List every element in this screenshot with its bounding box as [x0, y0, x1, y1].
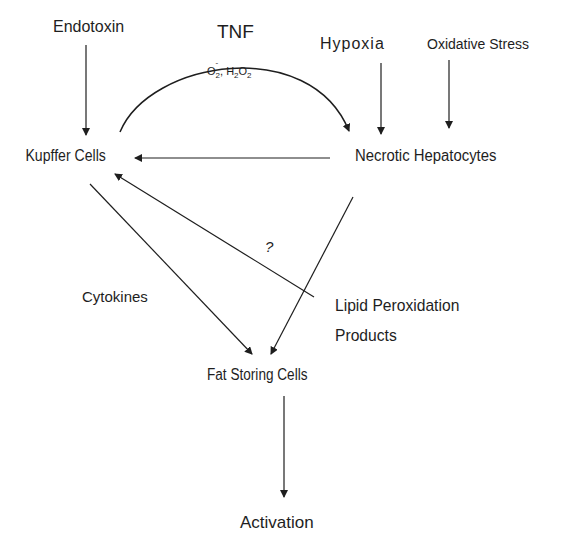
node-activation: Activation	[240, 514, 314, 531]
ros-o-sub: 2	[247, 71, 251, 80]
label-question-mark: ?	[265, 239, 273, 254]
label-tnf: TNF	[217, 22, 254, 41]
ros-o2-sub: 2	[216, 71, 220, 80]
label-ros: O-2, H2O2	[207, 66, 252, 80]
diagram-arrows	[0, 0, 574, 546]
arrow-lipid-to-kupffer	[115, 174, 314, 297]
ros-sep: , H	[220, 65, 234, 77]
arrow-kupffer-to-fatstoring	[90, 184, 252, 354]
node-hypoxia: Hypoxia	[320, 36, 385, 52]
label-cytokines: Cytokines	[82, 289, 148, 304]
node-lipid-peroxidation-line1: Lipid Peroxidation	[335, 297, 459, 314]
node-kupffer-cells: Kupffer Cells	[25, 148, 105, 164]
node-fat-storing-cells: Fat Storing Cells	[207, 367, 308, 383]
node-necrotic-hepatocytes: Necrotic Hepatocytes	[355, 148, 496, 164]
ros-o: O	[207, 65, 216, 77]
ros-o-2: O	[239, 65, 248, 77]
node-endotoxin: Endotoxin	[53, 19, 124, 35]
ros-o2-sup: -	[216, 59, 219, 67]
node-oxidative-stress: Oxidative Stress	[427, 37, 529, 51]
node-lipid-peroxidation-line2: Products	[335, 327, 397, 344]
